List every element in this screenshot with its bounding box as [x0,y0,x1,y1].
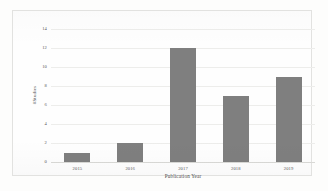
bar-slot: 2018 [209,29,262,162]
y-axis-tick-label: 8 [45,84,47,89]
x-axis-tick-label: 2018 [231,167,241,172]
x-axis-tick-label: 2017 [178,167,188,172]
bar [170,48,196,162]
y-axis-tick-label: 4 [45,122,47,127]
bars-group: 20152016201720182019 [51,29,315,162]
y-axis-tick-label: 14 [42,27,47,32]
bar [223,96,249,163]
bar [64,153,90,163]
x-axis-tick-label: 2019 [284,167,294,172]
x-axis-tick-label: 2015 [73,167,83,172]
y-axis-tick-label: 0 [45,160,47,165]
figure-canvas: 02468101214 20152016201720182019 Publica… [0,0,328,191]
bar-slot: 2019 [262,29,315,162]
gridline: 0 [51,162,315,163]
plot-area: 02468101214 20152016201720182019 [51,29,315,162]
bar-slot: 2015 [51,29,104,162]
y-axis-title: #Studies [32,86,37,104]
y-axis-tick-label: 12 [42,46,47,51]
x-axis-tick-label: 2016 [125,167,135,172]
y-axis-tick-label: 2 [45,141,47,146]
chart-frame: 02468101214 20152016201720182019 Publica… [12,10,312,176]
x-axis-title: Publication Year [51,174,315,179]
bar-slot: 2016 [104,29,157,162]
y-axis-tick-label: 10 [42,65,47,70]
y-axis-tick-label: 6 [45,103,47,108]
bar [276,77,302,163]
bar-slot: 2017 [157,29,210,162]
bar [117,143,143,162]
